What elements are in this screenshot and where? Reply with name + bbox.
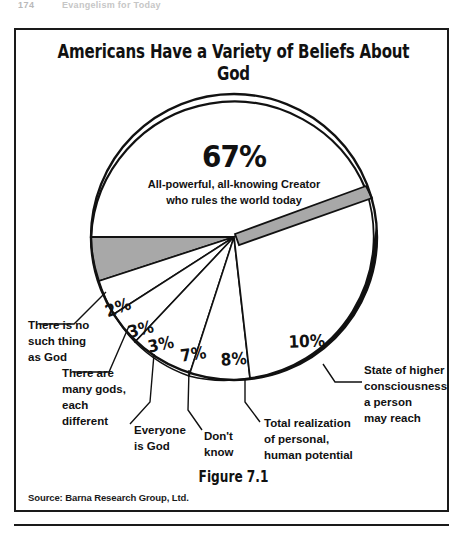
slice-7-percent: 7%	[179, 342, 207, 365]
leader-line-many-gods	[74, 326, 129, 372]
callout-no-god-line3: as God	[28, 351, 67, 363]
source-note: Source: Barna Research Group, Ltd.	[28, 492, 189, 503]
figure-number: Figure 7.1	[38, 468, 430, 486]
slice-8-percent: 8%	[220, 348, 247, 369]
callout-everyone-is-god-line2: is God	[134, 440, 170, 452]
callout-everyone-is-god-line1: Everyone	[134, 424, 186, 436]
callout-no-god-line1: There is no	[28, 319, 89, 331]
slice-67-percent: 67%	[202, 138, 267, 174]
figure-box: Americans Have a Variety of Beliefs Abou…	[14, 28, 449, 512]
leader-line-total-realization	[245, 379, 260, 422]
leader-line-everyone-is-god	[130, 354, 154, 424]
callout-higher-consciousness-line2: consciousness	[364, 380, 447, 392]
callout-many-gods-line4: different	[62, 415, 108, 427]
callout-total-realization-line3: human potential	[264, 449, 353, 461]
callout-many-gods-line2: many gods,	[62, 383, 126, 395]
callout-dont-know-line2: know	[204, 446, 233, 458]
callout-higher-consciousness-line3: a person	[364, 396, 412, 408]
slice-67-label-line2: who rules the world today	[165, 194, 303, 206]
slice-10-percent: 10%	[288, 330, 325, 351]
page-bottom-rule	[14, 524, 449, 526]
callout-higher-consciousness-line4: may reach	[364, 412, 421, 424]
callout-higher-consciousness-line1: State of higher	[364, 364, 445, 376]
callout-total-realization-line2: of personal,	[264, 433, 329, 445]
pie-chart: 67% All-powerful, all-knowing Creator wh…	[2, 2, 463, 539]
callout-total-realization-line1: Total realization	[264, 417, 351, 429]
slice-67-label-line1: All-powerful, all-knowing Creator	[148, 178, 321, 190]
callout-many-gods-line3: each	[62, 399, 88, 411]
leader-line-higher-consciousness	[323, 364, 362, 382]
callout-dont-know-line1: Don't	[204, 430, 233, 442]
callout-no-god-line2: such thing	[28, 335, 86, 347]
callout-many-gods-line1: There are	[62, 367, 114, 379]
